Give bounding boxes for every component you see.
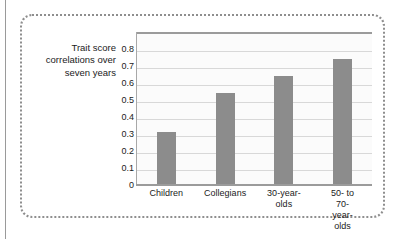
y-axis-tick-label: 0 <box>112 180 134 190</box>
bar <box>274 76 293 185</box>
gridline <box>137 51 372 52</box>
bar <box>157 132 176 185</box>
x-axis-tick-label: Children <box>150 188 184 199</box>
y-axis-title-line: seven years <box>38 67 116 79</box>
y-axis-tick-label: 0.4 <box>112 112 134 122</box>
y-axis-title: Trait scorecorrelations overseven years <box>38 42 116 79</box>
plot-area <box>137 32 372 185</box>
bar <box>216 93 235 185</box>
bar-chart: Trait scorecorrelations overseven years … <box>0 0 407 239</box>
y-axis-title-line: correlations over <box>38 54 116 66</box>
y-axis-tick-label: 0.3 <box>112 129 134 139</box>
y-axis-tick-labels: 00.10.20.30.40.50.60.70.8 <box>112 32 134 185</box>
y-axis-tick-label: 0.7 <box>112 61 134 71</box>
x-axis-line <box>136 184 372 186</box>
x-axis-tick-label-line: Children <box>150 188 184 199</box>
y-axis-title-line: Trait score <box>38 42 116 54</box>
x-axis-tick-labels: ChildrenCollegians30-year-olds50- to70-y… <box>137 188 372 220</box>
bar <box>333 59 352 185</box>
x-axis-tick-label: 30-year-olds <box>267 188 301 210</box>
x-axis-tick-label-line: 30-year- <box>267 188 301 199</box>
x-axis-tick-label-line: Collegians <box>204 188 246 199</box>
y-axis-tick-label: 0.1 <box>112 163 134 173</box>
x-axis-tick-label-line: olds <box>267 199 301 210</box>
y-axis-tick-label: 0.5 <box>112 95 134 105</box>
x-axis-tick-label: Collegians <box>204 188 246 199</box>
y-axis-tick-label: 0.8 <box>112 44 134 54</box>
y-axis-tick-label: 0.6 <box>112 78 134 88</box>
x-axis-tick-label: 50- to70-year-olds <box>328 188 357 232</box>
y-axis-tick-label: 0.2 <box>112 146 134 156</box>
x-axis-tick-label-line: 50- to <box>328 188 357 199</box>
x-axis-tick-label-line: 70-year-olds <box>328 199 357 232</box>
